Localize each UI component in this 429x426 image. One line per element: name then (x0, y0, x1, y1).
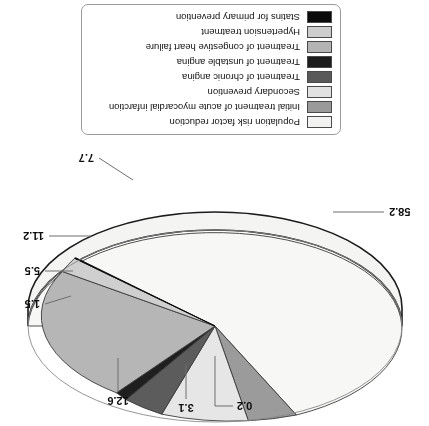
data-label-58-2: 58.2 (333, 206, 410, 218)
legend-item-label: Statins for primary prevention (176, 11, 300, 23)
pie-plot-area: 58.2 7.7 11.2 5.5 1.5 (0, 134, 429, 426)
legend-item-label: Treatment of chronic angina (182, 71, 300, 83)
legend-item-treatment-unstable-angina[interactable]: Treatment of unstable angina (88, 55, 332, 70)
legend-item-treatment-congestive-heart-failure[interactable]: Treatment of congestive heart failure (88, 40, 332, 55)
legend-swatch-icon (307, 116, 332, 128)
legend-item-initial-treatment-acute-mi[interactable]: Initial treatment of acute myocardial in… (88, 99, 332, 114)
data-label-7-7: 7.7 (79, 152, 133, 180)
pie-chart-figure: Population risk factor reduction Initial… (0, 0, 429, 426)
legend-swatch-icon (307, 11, 332, 23)
legend-item-label: Treatment of congestive heart failure (146, 41, 300, 53)
legend-item-population-risk-factor-reduction[interactable]: Population risk factor reduction (88, 114, 332, 129)
legend-item-label: Treatment of unstable angina (177, 56, 300, 68)
legend-swatch-icon (307, 101, 332, 113)
legend-item-label: Initial treatment of acute myocardial in… (109, 101, 300, 113)
data-label-text: 7.7 (79, 152, 94, 164)
legend-swatch-icon (307, 86, 332, 98)
data-label-text: 3.1 (178, 402, 193, 414)
legend-item-label: Population risk factor reduction (170, 116, 300, 128)
legend-item-secondary-prevention[interactable]: Secondary prevention (88, 84, 332, 99)
data-label-text: 5.5 (25, 265, 40, 277)
legend-item-hypertension-treatment[interactable]: Hypertension treatment (88, 25, 332, 40)
legend-item-treatment-chronic-angina[interactable]: Treatment of chronic angina (88, 70, 332, 85)
pie-svg: 58.2 7.7 11.2 5.5 1.5 (0, 134, 429, 426)
data-label-text: 12.6 (107, 395, 128, 407)
legend-item-statins-primary-prevention[interactable]: Statins for primary prevention (88, 10, 332, 25)
legend-swatch-icon (307, 26, 332, 38)
data-label-text: 11.2 (23, 230, 44, 242)
legend-item-label: Hypertension treatment (201, 26, 300, 38)
legend-item-list: Population risk factor reduction Initial… (82, 5, 340, 134)
legend-swatch-icon (307, 71, 332, 83)
legend-swatch-icon (307, 56, 332, 68)
data-label-text: 0.2 (237, 400, 252, 412)
data-label-text: 58.2 (389, 206, 410, 218)
data-label-text: 1.5 (25, 298, 40, 310)
data-label-11-2: 11.2 (23, 230, 91, 242)
legend-item-label: Secondary prevention (208, 86, 300, 98)
legend-swatch-icon (307, 41, 332, 53)
chart-legend: Population risk factor reduction Initial… (81, 4, 341, 135)
